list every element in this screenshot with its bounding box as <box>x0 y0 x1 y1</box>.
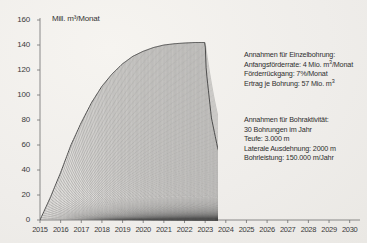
y-tick-label: 120 <box>4 65 30 74</box>
annotation-line: Annahmen für Bohraktivität: <box>244 115 336 125</box>
chart-figure: Mill. m³/Monat 020406080100120140160 201… <box>0 0 367 243</box>
annotation-line: Bohrleistung: 150.000 m/Jahr <box>244 153 336 163</box>
annotation-line: Teufe: 3.000 m <box>244 134 336 144</box>
y-tick-label: 160 <box>4 15 30 24</box>
y-tick-label: 60 <box>4 140 30 149</box>
annotation-line: Förderrückgang: 7%/Monat <box>244 69 353 79</box>
y-tick-label: 100 <box>4 90 30 99</box>
y-tick-marks <box>37 20 40 220</box>
y-tick-label: 140 <box>4 40 30 49</box>
y-tick-label: 20 <box>4 190 30 199</box>
x-tick-label: 2030 <box>335 225 365 234</box>
x-tick-marks <box>40 220 350 223</box>
y-tick-label: 0 <box>4 215 30 224</box>
y-tick-label: 40 <box>4 165 30 174</box>
annotation-line: Anfangsförderrate: 4 Mio. m3/Monat <box>244 60 353 70</box>
annotation-line: 30 Bohrungen im Jahr <box>244 125 336 135</box>
annotation-line: Annahmen für Einzelbohrung: <box>244 50 353 60</box>
annotation-line: Laterale Ausdehnung: 2000 m <box>244 144 336 154</box>
annotation-single-well-assumptions: Annahmen für Einzelbohrung:Anfangsförder… <box>244 50 353 88</box>
annotation-line: Ertrag je Bohrung: 57 Mio. m3 <box>244 79 353 89</box>
annotation-drilling-activity-assumptions: Annahmen für Bohraktivität:30 Bohrungen … <box>244 115 336 163</box>
y-tick-label: 80 <box>4 115 30 124</box>
